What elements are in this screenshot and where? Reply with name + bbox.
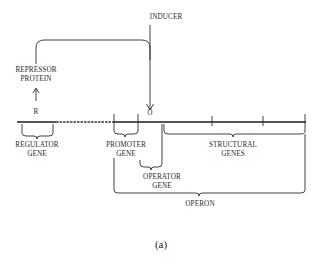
promoter-gene-brace <box>114 114 138 137</box>
structural-genes-brace <box>164 124 305 137</box>
structural-genes-label-line1: STRUCTURAL <box>209 141 257 149</box>
operator-gene-label-line2: GENE <box>152 182 172 190</box>
operator-gene-label-line1: OPERATOR <box>143 173 181 181</box>
operon-label: OPERON <box>185 200 215 208</box>
regulator-site-label: R <box>34 108 39 116</box>
regulator-gene-label-line1: REGULATOR <box>15 141 59 149</box>
dna-strand <box>17 114 306 126</box>
promoter-gene-label-line2: GENE <box>116 150 136 158</box>
operon-diagram: INDUCER REPRESSOR PROTEIN R O REGULATOR … <box>0 0 322 273</box>
inducer-arrow <box>147 25 154 110</box>
repressor-protein-label-line1: REPRESSOR <box>15 66 56 74</box>
structural-genes-label-line2: GENES <box>221 150 245 158</box>
inducer-label: INDUCER <box>150 13 183 21</box>
regulator-gene-label-line2: GENE <box>27 150 47 158</box>
operator-site-label: O <box>147 109 152 117</box>
repressor-binding-arc <box>36 40 150 64</box>
repressor-protein-label-line2: PROTEIN <box>20 75 52 83</box>
repressor-up-arrow <box>33 88 39 101</box>
promoter-gene-label-line1: PROMOTER <box>106 141 146 149</box>
regulator-gene-brace <box>22 124 53 139</box>
figure-caption: (a) <box>155 238 168 251</box>
